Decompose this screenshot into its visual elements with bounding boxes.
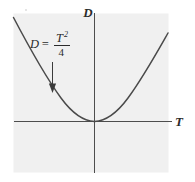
equation-numerator: T <box>56 31 64 45</box>
parabola-figure: D T D = T 2 4 <box>0 0 195 182</box>
equation-numerator-exponent: 2 <box>64 30 68 39</box>
y-axis-label: D <box>82 5 93 20</box>
equation-lhs: D <box>29 37 39 51</box>
equation-denominator: 4 <box>59 46 65 58</box>
figure-canvas: D T D = T 2 4 <box>0 0 195 182</box>
equation-equals: = <box>41 37 49 51</box>
x-axis-label: T <box>175 114 184 129</box>
scan-speck <box>25 9 27 11</box>
